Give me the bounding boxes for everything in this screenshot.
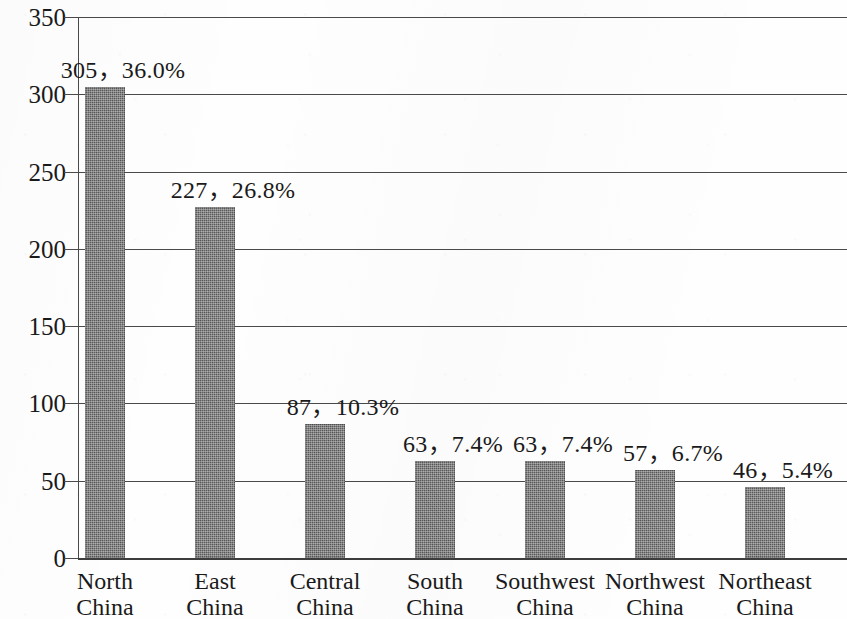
x-axis-category-label: NorthChina: [76, 568, 133, 619]
category-label-line: China: [76, 594, 133, 619]
y-axis-tick-300: [64, 94, 78, 95]
x-axis-baseline: [78, 558, 847, 560]
category-label-line: East: [186, 568, 243, 594]
bar[interactable]: [85, 87, 125, 558]
y-axis-tick-label: 250: [0, 159, 66, 184]
bar[interactable]: [415, 461, 455, 558]
y-axis-tick-250: [64, 172, 78, 173]
y-axis-tick-label: 200: [0, 236, 66, 261]
y-axis-tick-label: 150: [0, 314, 66, 339]
bar-value-label: 305，36.0%: [61, 58, 186, 82]
y-axis-tick-350: [64, 17, 78, 18]
bar-value-label: 46，5.4%: [733, 458, 833, 482]
category-label-line: China: [290, 594, 361, 619]
category-label-line: Northwest: [605, 568, 705, 594]
y-axis-line: [78, 17, 79, 558]
y-axis-tick-150: [64, 326, 78, 327]
y-axis-tick-label: 300: [0, 82, 66, 107]
bar-chart-figure: 050100150200250300350 305，36.0%227，26.8%…: [0, 0, 847, 619]
bar[interactable]: [635, 470, 675, 558]
gridline-300: [78, 94, 847, 95]
gridline-150: [78, 326, 847, 327]
y-axis-tick-label: 50: [0, 468, 66, 493]
x-axis-category-label: SouthwestChina: [495, 568, 595, 619]
category-label-line: Southwest: [495, 568, 595, 594]
category-label-line: China: [718, 594, 811, 619]
category-label-line: China: [406, 594, 463, 619]
gridline-50: [78, 481, 847, 482]
x-axis-category-label: CentralChina: [290, 568, 361, 619]
bar-value-label: 87，10.3%: [287, 395, 399, 419]
y-axis-tick-200: [64, 249, 78, 250]
x-axis-category-label: NortheastChina: [718, 568, 811, 619]
y-axis-tick-label: 350: [0, 5, 66, 30]
category-label-line: South: [406, 568, 463, 594]
y-axis-tick-50: [64, 481, 78, 482]
category-label-line: Northeast: [718, 568, 811, 594]
y-axis-tick-100: [64, 403, 78, 404]
gridline-200: [78, 249, 847, 250]
bar[interactable]: [745, 487, 785, 558]
y-axis-tick-0: [64, 558, 78, 559]
category-label-line: China: [605, 594, 705, 619]
bar[interactable]: [195, 207, 235, 558]
y-axis-tick-label: 0: [0, 546, 66, 571]
plot-area: [78, 17, 847, 558]
bar-value-label: 63，7.4%: [513, 432, 613, 456]
category-label-line: China: [495, 594, 595, 619]
category-label-line: Central: [290, 568, 361, 594]
x-axis-category-label: NorthwestChina: [605, 568, 705, 619]
x-axis-category-label: SouthChina: [406, 568, 463, 619]
x-axis-category-label: EastChina: [186, 568, 243, 619]
bar[interactable]: [305, 424, 345, 558]
bar-value-label: 57，6.7%: [623, 441, 723, 465]
category-label-line: China: [186, 594, 243, 619]
category-label-line: North: [76, 568, 133, 594]
bar[interactable]: [525, 461, 565, 558]
bar-value-label: 63，7.4%: [403, 432, 503, 456]
y-axis-tick-label: 100: [0, 391, 66, 416]
gridline-100: [78, 403, 847, 404]
gridline-350: [78, 17, 847, 18]
bar-value-label: 227，26.8%: [171, 178, 296, 202]
gridline-250: [78, 172, 847, 173]
